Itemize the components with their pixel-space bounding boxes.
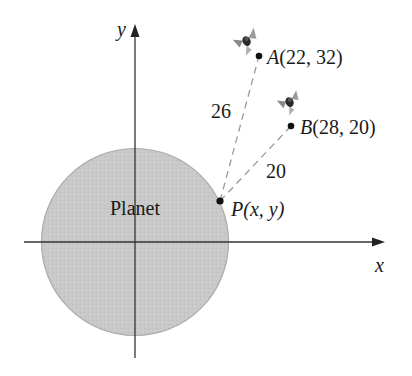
point-A [256,53,263,60]
point-A-coords: (22, 32) [279,46,342,69]
satellite-icon [276,90,304,117]
point-label-A: A(22, 32) [265,46,343,69]
y-axis-label: y [115,18,126,41]
point-A-name: A [265,46,280,68]
point-P-coords: (x, y) [243,198,284,221]
point-label-P: P(x, y) [230,198,285,221]
distance-line-PA [220,56,259,201]
point-label-B: B(28, 20) [300,116,376,139]
point-B-name: B [300,116,312,138]
x-axis-label: x [374,254,384,276]
point-B [288,123,295,130]
y-axis-arrow-icon [131,24,140,37]
distance-label-PB: 20 [266,160,286,182]
planet-satellite-diagram: y x Planet 26 20 A(22, 32) B(28, 20) P(x… [0,0,412,376]
x-axis-arrow-icon [372,238,385,247]
distance-label-PA: 26 [211,100,231,122]
point-B-coords: (28, 20) [312,116,375,139]
point-P-name: P [230,198,243,220]
point-P [216,197,223,204]
planet-label: Planet [110,197,160,219]
